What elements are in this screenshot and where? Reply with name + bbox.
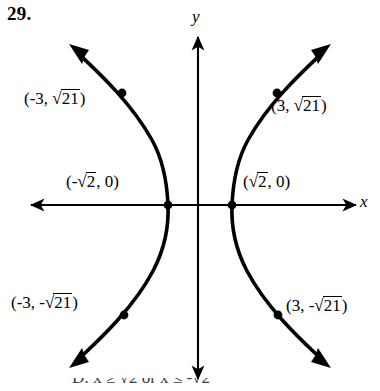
radicand: 21 bbox=[61, 89, 80, 108]
paren-close: ) bbox=[285, 172, 291, 191]
point-dot-upper-left bbox=[118, 89, 127, 98]
y-value: 0 bbox=[105, 172, 114, 191]
point-dot-vertex-left bbox=[164, 201, 173, 210]
radical-sign: √ bbox=[249, 173, 258, 191]
radicand: 2 bbox=[86, 172, 97, 191]
paren-close: ) bbox=[342, 296, 348, 315]
sqrt-icon: √21 bbox=[45, 293, 72, 312]
paren-close: ) bbox=[72, 293, 78, 312]
radical-sign: √ bbox=[294, 97, 303, 115]
x-value: -3 bbox=[30, 89, 44, 108]
radicand: 2 bbox=[257, 172, 268, 191]
x-value: -3 bbox=[17, 293, 31, 312]
point-label-vertex-left: (-√2, 0) bbox=[66, 172, 119, 191]
comma: , bbox=[96, 172, 105, 191]
figure-page: 29. y x (-3, √21) bbox=[0, 0, 380, 391]
point-label-upper-right: (3, √21) bbox=[271, 96, 327, 115]
hyperbola-graph bbox=[0, 0, 380, 391]
radical-sign: √ bbox=[45, 294, 54, 312]
radical-sign: √ bbox=[52, 90, 61, 108]
point-label-vertex-right: (√2, 0) bbox=[243, 172, 290, 191]
paren-close: ) bbox=[321, 96, 327, 115]
radicand: 21 bbox=[53, 293, 72, 312]
paren-close: ) bbox=[113, 172, 119, 191]
comma: , bbox=[268, 172, 277, 191]
sqrt-icon: √2 bbox=[249, 172, 268, 191]
y-value: 0 bbox=[276, 172, 285, 191]
comma: , bbox=[285, 96, 294, 115]
comma: , bbox=[44, 89, 53, 108]
x-axis-label: x bbox=[360, 193, 368, 210]
x-value: 3 bbox=[277, 96, 286, 115]
sqrt-icon: √21 bbox=[314, 296, 341, 315]
comma: , bbox=[300, 296, 309, 315]
point-label-lower-right: (3, -√21) bbox=[286, 296, 347, 315]
footer-clipped-line: D: x ≥ √2 or x ≤ -√2 bbox=[0, 378, 380, 391]
sqrt-icon: √2 bbox=[77, 172, 96, 191]
y-axis-label: y bbox=[192, 8, 200, 25]
paren-close: ) bbox=[80, 89, 86, 108]
point-dot-lower-left bbox=[120, 311, 129, 320]
point-dot-lower-right bbox=[274, 311, 283, 320]
point-label-upper-left: (-3, √21) bbox=[24, 89, 85, 108]
point-label-lower-left: (-3, -√21) bbox=[11, 293, 78, 312]
point-dot-vertex-right bbox=[228, 201, 237, 210]
radicand: 21 bbox=[323, 296, 342, 315]
footer-text: D: x ≥ √2 or x ≤ -√2 bbox=[72, 378, 210, 388]
radicand: 21 bbox=[302, 96, 321, 115]
radical-sign: √ bbox=[77, 173, 86, 191]
sqrt-icon: √21 bbox=[52, 89, 79, 108]
x-value: 3 bbox=[292, 296, 301, 315]
radical-sign: √ bbox=[314, 297, 323, 315]
sqrt-icon: √21 bbox=[294, 96, 321, 115]
